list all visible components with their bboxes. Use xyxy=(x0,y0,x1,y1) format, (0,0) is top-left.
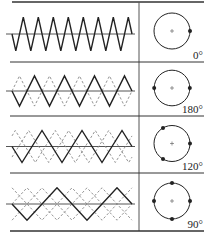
center-cross-icon xyxy=(170,29,174,33)
phase-dot xyxy=(188,29,192,33)
waveform-phase-table: 0°180°120°90° xyxy=(0,0,209,239)
center-cross-icon xyxy=(170,142,174,146)
phase-dot xyxy=(188,142,192,146)
phase-angle-label: 90° xyxy=(188,218,203,230)
phase-dot xyxy=(161,157,165,161)
phase-dot xyxy=(170,181,174,185)
table-row: 90° xyxy=(6,173,204,230)
phase-dot xyxy=(161,126,165,130)
center-cross-icon xyxy=(170,199,174,203)
phase-dot xyxy=(152,199,156,203)
phase-angle-label: 120° xyxy=(182,160,203,172)
phase-angle-label: 180° xyxy=(182,103,203,115)
table-row: 0° xyxy=(6,13,203,61)
table-row: 120° xyxy=(6,116,204,172)
phase-dot xyxy=(170,217,174,221)
phase-dot xyxy=(188,199,192,203)
phase-angle-label: 0° xyxy=(193,49,203,61)
table-row: 180° xyxy=(6,62,204,115)
center-cross-icon xyxy=(170,86,174,90)
phase-dot xyxy=(152,86,156,90)
phase-dot xyxy=(188,86,192,90)
